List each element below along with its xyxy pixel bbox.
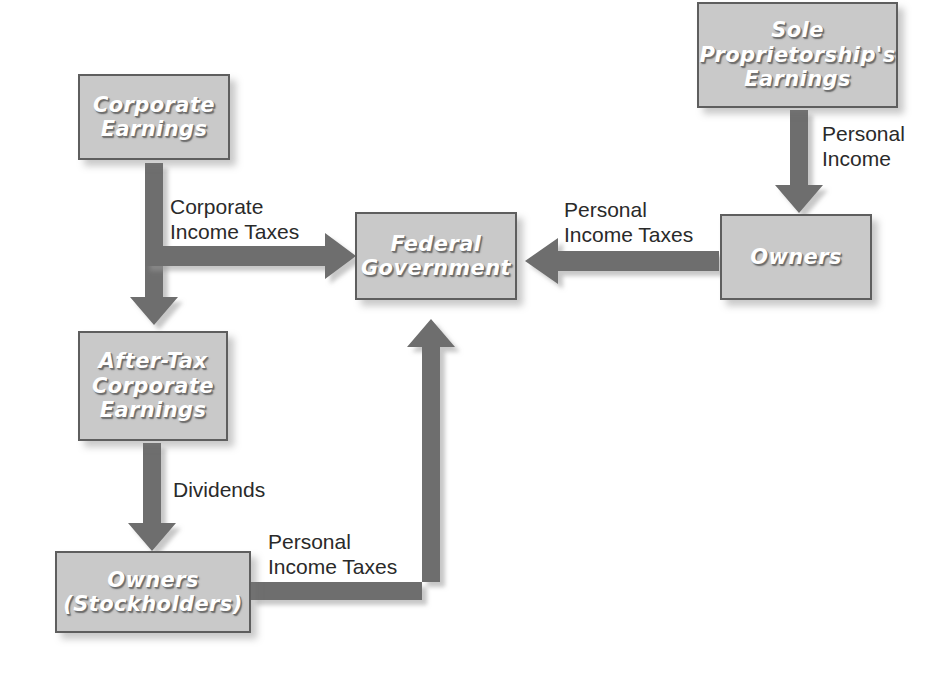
node-label-owners: Owners (750, 245, 842, 269)
node-sole-proprietorship-earnings[interactable]: Sole Proprietorship's Earnings (697, 2, 898, 108)
node-label-corporate-earnings: Corporate Earnings (93, 93, 215, 142)
node-owners-stockholders[interactable]: Owners (Stockholders) (55, 551, 251, 633)
node-owners[interactable]: Owners (720, 214, 872, 300)
edge-label-owner-personal-income-taxes: Personal Income Taxes (564, 198, 693, 248)
diagram-canvas: Corporate Earnings After-Tax Corporate E… (0, 0, 950, 683)
edge-label-personal-income: Personal Income (822, 122, 905, 172)
edge-label-stockholder-personal-income-taxes: Personal Income Taxes (268, 530, 397, 580)
node-federal-government[interactable]: Federal Government (355, 212, 517, 300)
node-label-federal-government: Federal Government (361, 232, 511, 281)
edge-label-dividends: Dividends (173, 478, 265, 503)
node-label-sole-proprietorship-earnings: Sole Proprietorship's Earnings (699, 18, 895, 91)
arrow-personal-income (775, 110, 823, 213)
node-after-tax-corporate-earnings[interactable]: After-Tax Corporate Earnings (78, 331, 228, 441)
arrow-dividends (128, 443, 176, 551)
edge-label-corporate-income-taxes: Corporate Income Taxes (170, 195, 299, 245)
node-label-after-tax-corporate-earnings: After-Tax Corporate Earnings (92, 349, 214, 422)
node-label-owners-stockholders: Owners (Stockholders) (63, 568, 243, 617)
node-corporate-earnings[interactable]: Corporate Earnings (78, 74, 230, 160)
